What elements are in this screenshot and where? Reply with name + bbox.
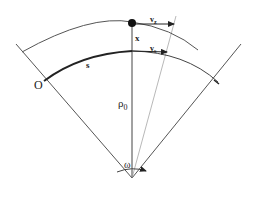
right-radial-line: [132, 44, 241, 178]
vs-label: vs: [150, 44, 157, 54]
angle-omega-label: ω: [124, 159, 131, 170]
outer-arc: [22, 21, 198, 52]
radius-label: ρ0: [118, 97, 128, 112]
offset-label: x: [135, 33, 140, 43]
curvilinear-coordinates-diagram: O s x vz vs ρ0 ω: [0, 0, 253, 211]
arc-length-label: s: [86, 60, 90, 70]
origin-label: O: [34, 78, 43, 92]
particle-dot: [128, 19, 136, 27]
reference-arc-thin: [132, 51, 218, 82]
vz-label: vz: [150, 15, 157, 25]
